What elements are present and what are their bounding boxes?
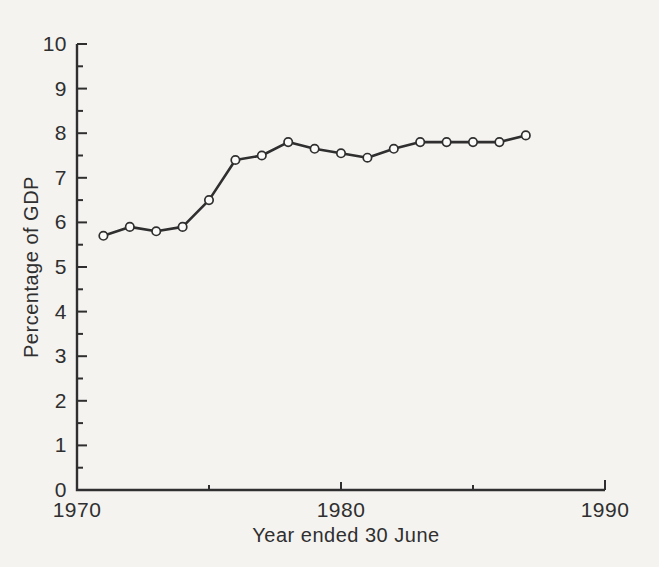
x-axis-title: Year ended 30 June: [252, 524, 439, 546]
y-tick-label: 7: [55, 166, 67, 189]
x-tick-label: 1990: [581, 498, 630, 521]
tick-labels: 012345678910197019801990: [43, 32, 630, 521]
data-series: [99, 131, 530, 240]
y-tick-label: 1: [55, 433, 67, 456]
data-point-marker: [442, 138, 450, 146]
y-tick-label: 4: [55, 300, 67, 323]
data-point-marker: [416, 138, 424, 146]
y-tick-label: 10: [43, 32, 67, 55]
data-point-marker: [126, 223, 134, 231]
data-point-marker: [205, 196, 213, 204]
y-axis-title: Percentage of GDP: [20, 176, 42, 358]
line-chart: 012345678910197019801990 Percentage of G…: [0, 0, 659, 567]
data-point-marker: [337, 149, 345, 157]
data-point-marker: [152, 227, 160, 235]
y-tick-label: 9: [55, 77, 67, 100]
x-tick-label: 1980: [317, 498, 366, 521]
data-point-marker: [178, 223, 186, 231]
y-tick-label: 6: [55, 210, 67, 233]
data-point-marker: [390, 145, 398, 153]
data-point-marker: [310, 145, 318, 153]
data-point-marker: [284, 138, 292, 146]
y-tick-label: 5: [55, 255, 67, 278]
data-point-marker: [522, 131, 530, 139]
data-point-marker: [469, 138, 477, 146]
data-point-marker: [363, 154, 371, 162]
chart-figure: 012345678910197019801990 Percentage of G…: [0, 0, 659, 567]
axis-frame: [77, 44, 605, 490]
data-point-marker: [231, 156, 239, 164]
data-point-marker: [99, 232, 107, 240]
y-tick-label: 3: [55, 344, 67, 367]
axes: [77, 44, 605, 490]
x-tick-label: 1970: [53, 498, 102, 521]
y-tick-label: 2: [55, 389, 67, 412]
y-tick-label: 8: [55, 121, 67, 144]
data-point-marker: [258, 151, 266, 159]
data-point-marker: [495, 138, 503, 146]
